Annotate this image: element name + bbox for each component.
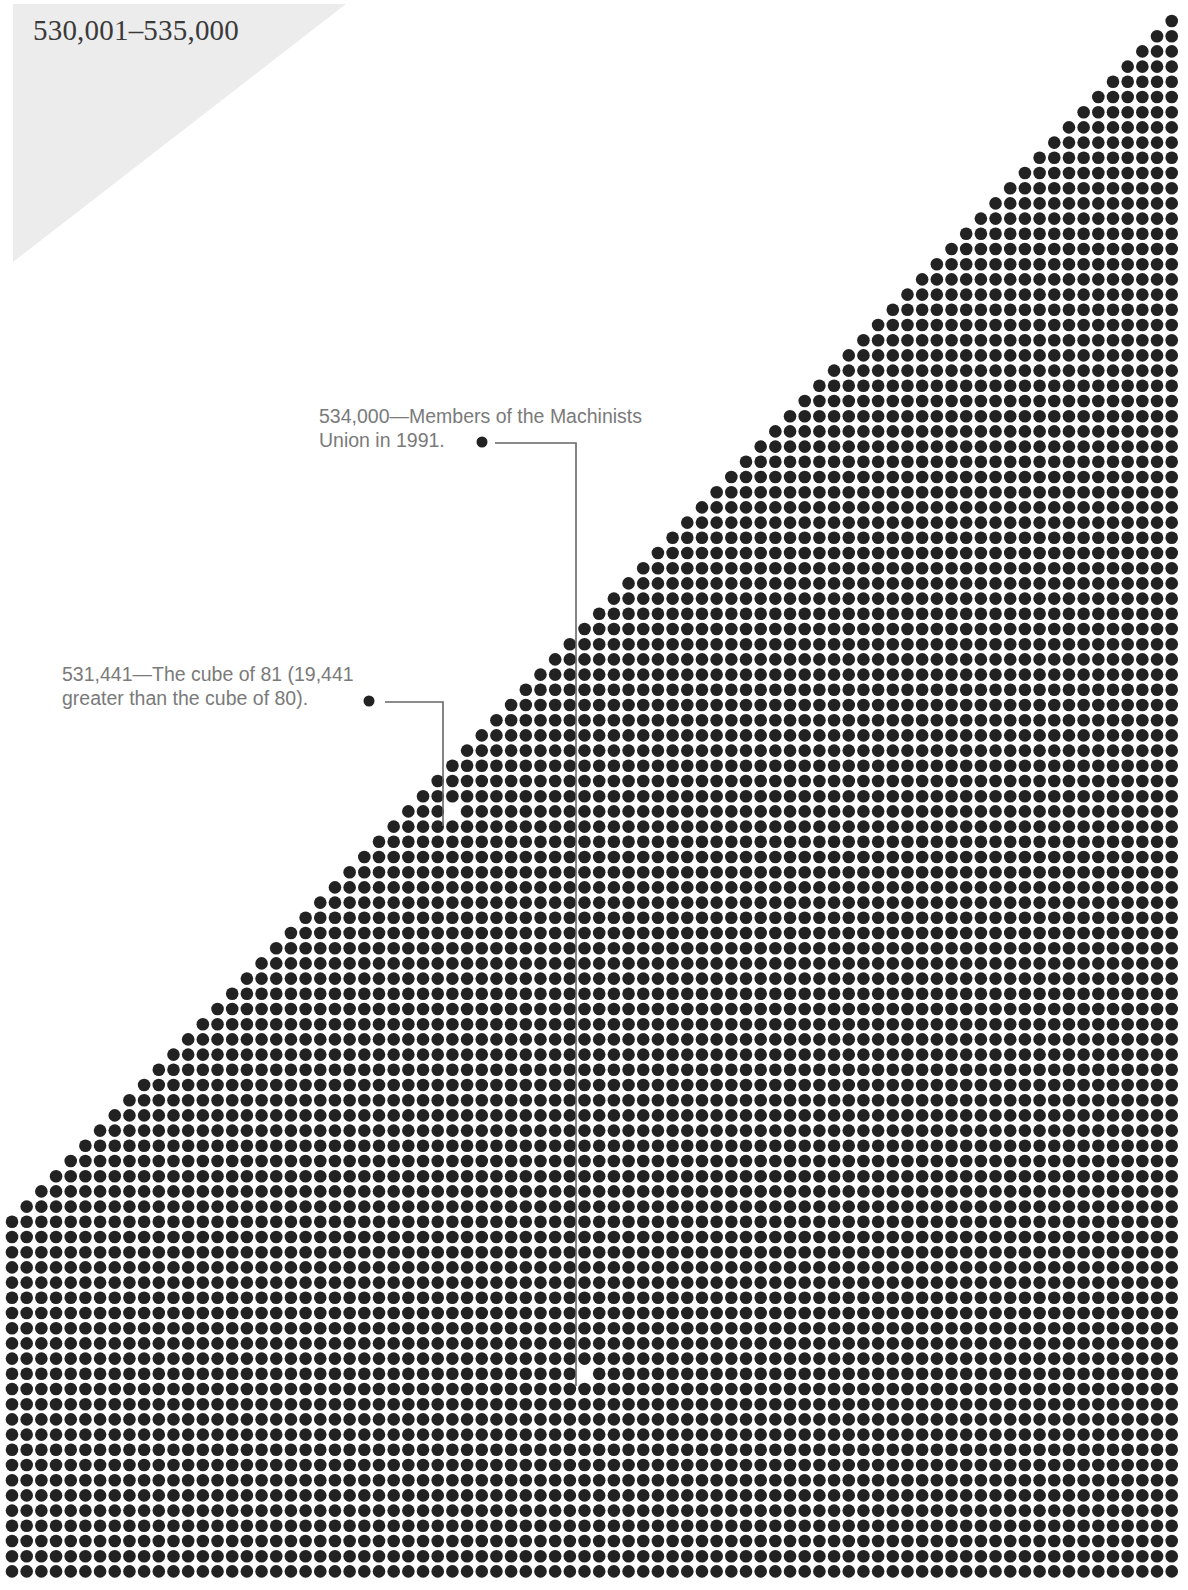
annotation-line-1: 534,000—Members of the Machinists	[319, 404, 642, 428]
annotation-machinists: 534,000—Members of the Machinists Union …	[319, 404, 642, 452]
bullet-dot-icon	[364, 696, 375, 707]
annotation-line-2: Union in 1991.	[319, 428, 642, 452]
annotation-line-1: 531,441—The cube of 81 (19,441	[62, 662, 354, 686]
annotation-line-2: greater than the cube of 80).	[62, 686, 354, 710]
annotation-cube-of-81: 531,441—The cube of 81 (19,441 greater t…	[62, 662, 354, 710]
dot-grid	[0, 0, 1188, 1590]
